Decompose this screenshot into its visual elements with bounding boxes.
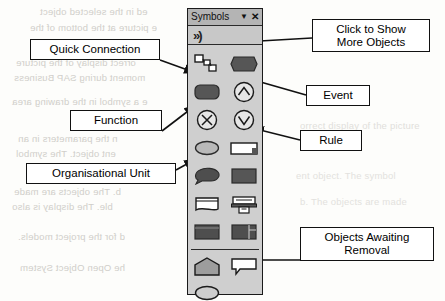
rect-filled-icon (231, 168, 257, 184)
circle-caret-down-icon (233, 109, 255, 131)
ghost-text: b. The objects are made (300, 196, 407, 207)
symbol-application-system[interactable] (190, 219, 224, 245)
panel-title: Symbols (191, 12, 240, 22)
symbol-event[interactable] (227, 51, 261, 77)
circle-caret-up-icon (233, 81, 255, 103)
symbols-panel: Symbols ▼ ✕ ») (187, 8, 263, 295)
symbol-pending-home[interactable] (190, 253, 224, 279)
ghost-text: ent object. The symbol (16, 148, 116, 159)
document-outline-icon (194, 196, 220, 213)
symbols-panel-titlebar[interactable]: Symbols ▼ ✕ (188, 9, 262, 26)
chevron-down-icon[interactable]: ▼ (240, 13, 248, 21)
callout-line: Rule (319, 134, 343, 147)
ghost-text: ed in the selected object (40, 6, 147, 17)
ghost-text: ent object. The symbol (296, 170, 396, 181)
symbol-function[interactable] (190, 79, 224, 105)
callout-line: Function (94, 114, 138, 127)
rounded-rect-filled-icon (194, 84, 220, 100)
symbol-document[interactable] (190, 191, 224, 217)
callout-function: Function (70, 110, 162, 131)
callout-event: Event (306, 85, 370, 106)
callout-organisational-unit: Organisational Unit (26, 163, 176, 184)
callout-objects-awaiting-removal: Objects Awaiting Removal (300, 227, 434, 261)
pending-removal-group (188, 253, 262, 301)
ghost-text: moment during SAP Business (14, 72, 145, 83)
ghost-text: he Open Object System (20, 262, 125, 273)
symbol-rule[interactable] (227, 107, 261, 133)
ghost-text: e a symbol in the drawing area (12, 96, 147, 107)
symbol-organisational-unit[interactable] (190, 135, 224, 161)
symbols-grid (188, 45, 262, 245)
rect-dark-icon (194, 224, 220, 240)
callout-line: Objects Awaiting (325, 231, 410, 244)
symbol-quick-connection[interactable] (190, 51, 224, 77)
double-chevron-right-icon[interactable]: ») (193, 29, 201, 42)
ghost-text: e picture at the bottom of the (30, 22, 157, 33)
rect-split-icon (231, 224, 257, 240)
connected-squares-icon (194, 54, 220, 74)
symbol-entity-type[interactable] (227, 163, 261, 189)
symbol-pending-ellipse[interactable] (190, 280, 224, 301)
ghost-text: ble. The display is also (12, 201, 113, 212)
callout-quick-connection: Quick Connection (30, 39, 160, 60)
cloud-filled-icon (193, 167, 221, 185)
symbol-connector-and[interactable] (227, 79, 261, 105)
hexagon-filled-icon (230, 56, 258, 72)
callout-line: Event (323, 89, 352, 102)
ghost-text: b. The objects are made (14, 186, 121, 197)
callout-click-to-show: Click to Show More Objects (312, 19, 430, 52)
callout-line: Removal (344, 244, 389, 257)
circle-x-icon (196, 109, 218, 131)
show-more-objects-bar[interactable]: ») (188, 26, 262, 45)
ellipse-outline-icon (194, 285, 220, 301)
outlined-bar-icon (230, 142, 258, 155)
screenshot-canvas: ed in the selected object e picture at t… (0, 0, 445, 301)
ghost-text: n the parameters in an (18, 133, 117, 144)
symbol-output-device[interactable] (227, 191, 261, 217)
symbol-connector-xor[interactable] (190, 107, 224, 133)
close-icon[interactable]: ✕ (251, 12, 259, 22)
ellipse-filled-icon (194, 140, 220, 156)
symbol-cluster[interactable] (190, 163, 224, 189)
callout-rule: Rule (300, 130, 362, 151)
callout-line: Quick Connection (50, 43, 141, 56)
callout-line: Organisational Unit (52, 167, 150, 180)
printer-icon (231, 195, 257, 214)
ghost-text: d for the project models. (18, 231, 125, 242)
symbol-screen-object[interactable] (227, 219, 261, 245)
pentagon-outline-icon (194, 257, 220, 276)
pending-empty-slot (227, 280, 261, 301)
symbol-pending-note[interactable] (227, 253, 261, 279)
speech-callout-icon (231, 257, 257, 276)
toolbar-separator (191, 249, 259, 250)
callout-line: Click to Show (336, 23, 406, 36)
symbol-information-object[interactable] (227, 135, 261, 161)
callout-line: More Objects (337, 36, 405, 49)
